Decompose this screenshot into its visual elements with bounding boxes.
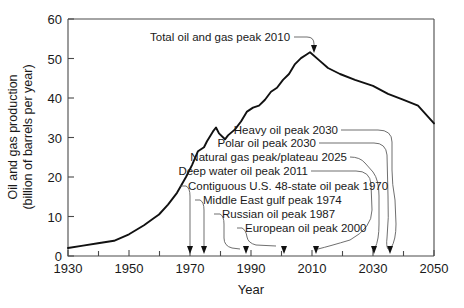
y-tick-label-40: 40 [48, 91, 62, 106]
arrowhead-contiguous-us [187, 246, 193, 254]
leader-middle-east [195, 200, 204, 248]
annotation-russian-oil-label: Russian oil peak 1987 [222, 208, 335, 220]
x-axis-tick-labels: 1930 1950 1970 1990 2010 2030 2050 [54, 261, 449, 276]
x-tick-label-2030: 2030 [359, 261, 388, 276]
annotation-heavy-oil-label: Heavy oil peak 2030 [234, 124, 338, 136]
y-axis-title-line1: Oil and gas production [6, 74, 20, 199]
arrowhead-total-peak [311, 45, 317, 53]
annotation-european-oil-label: European oil peak 2000 [245, 222, 367, 234]
arrowhead-heavy-oil [387, 246, 393, 254]
y-tick-label-60: 60 [48, 12, 62, 27]
x-tick-label-1930: 1930 [54, 261, 83, 276]
y-tick-label-50: 50 [48, 52, 62, 67]
annotation-total-peak-label: Total oil and gas peak 2010 [150, 31, 290, 43]
x-tick-label-2050: 2050 [420, 261, 449, 276]
x-tick-label-1970: 1970 [176, 261, 205, 276]
annotation-natural-gas-label: Natural gas peak/plateau 2025 [190, 151, 347, 163]
y-tick-label-20: 20 [48, 170, 62, 185]
y-axis-tick-labels: 0 10 20 30 40 50 60 [48, 12, 62, 264]
chart-figure: 0 10 20 30 40 50 60 Oil and gas producti… [0, 0, 464, 308]
annotation-labels: Total oil and gas peak 2010 Heavy oil pe… [150, 31, 388, 234]
y-axis-title-line2: (billion of barrels per year) [21, 64, 35, 209]
annotation-middle-east-label: Middle East gulf peak 1974 [203, 194, 342, 206]
arrowhead-middle-east [201, 246, 207, 254]
arrowhead-russian-oil [243, 246, 249, 254]
arrowhead-natural-gas [371, 246, 377, 254]
oil-gas-production-chart: 0 10 20 30 40 50 60 Oil and gas producti… [0, 0, 464, 308]
annotation-deep-water-label: Deep water oil peak 2011 [178, 165, 308, 177]
arrowhead-deep-water [313, 246, 319, 254]
x-axis-title: Year [238, 282, 265, 297]
y-tick-label-30: 30 [48, 131, 62, 146]
annotation-polar-oil-label: Polar oil peak 2030 [218, 137, 316, 149]
x-tick-label-1950: 1950 [115, 261, 144, 276]
annotation-contiguous-us-label: Contiguous U.S. 48-state oil peak 1970 [188, 180, 388, 192]
x-tick-label-1990: 1990 [237, 261, 266, 276]
leader-contiguous-us [180, 186, 190, 248]
y-axis-title: Oil and gas production (billion of barre… [6, 64, 35, 209]
y-axis-ticks [68, 19, 74, 256]
x-axis-ticks [68, 250, 434, 256]
y-tick-label-10: 10 [48, 210, 62, 225]
x-tick-label-2010: 2010 [298, 261, 327, 276]
leader-total-peak [294, 37, 314, 47]
